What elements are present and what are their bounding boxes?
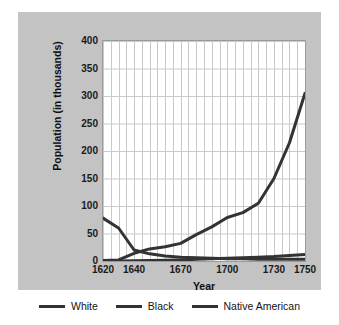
legend-label: Black (148, 300, 174, 312)
legend-line-swatch-icon (116, 305, 142, 308)
legend-line-swatch-icon (192, 305, 218, 308)
x-tick-label: 1620 (92, 264, 114, 276)
legend-item[interactable]: Native American (192, 300, 300, 312)
y-tick-label: 100 (52, 201, 98, 211)
series-line-white (103, 93, 305, 260)
legend-item[interactable]: Black (116, 300, 174, 312)
x-axis-tick-labels: 162016401670170017301750 (102, 264, 306, 278)
chart-legend: WhiteBlackNative American (18, 296, 321, 316)
y-axis-title: Population (in thousands) (51, 11, 63, 201)
x-tick-label: 1700 (216, 264, 238, 276)
chart-panel: 050100150200250300350400 Population (in … (18, 12, 321, 290)
legend-label: Native American (224, 300, 300, 312)
x-tick-label: 1730 (263, 264, 285, 276)
population-line-chart-figure: 050100150200250300350400 Population (in … (0, 0, 339, 325)
x-tick-label: 1750 (294, 264, 316, 276)
x-tick-label: 1670 (170, 264, 192, 276)
legend-line-swatch-icon (39, 305, 65, 308)
y-tick-label: 50 (52, 229, 98, 239)
legend-label: White (71, 300, 98, 312)
x-tick-label: 1640 (123, 264, 145, 276)
x-axis-title: Year (102, 280, 306, 292)
plot-area (102, 40, 306, 262)
legend-item[interactable]: White (39, 300, 98, 312)
data-layer (103, 41, 305, 261)
